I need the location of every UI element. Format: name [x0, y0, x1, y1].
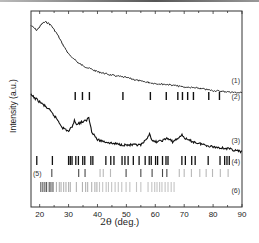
reference-patterns	[37, 92, 230, 192]
reference-pattern-5	[52, 169, 228, 177]
xrd-curve-1	[31, 22, 242, 94]
xrd-curve-3	[31, 94, 242, 153]
x-axis-unit: (deg.)	[112, 216, 139, 227]
x-tick-label: 30	[64, 210, 73, 219]
x-tick-label: 70	[180, 210, 189, 219]
x-axis-label: 2θ (deg.)	[100, 216, 139, 227]
plot-frame	[31, 11, 242, 207]
y-axis-label: Intensity (a.u.)	[8, 71, 18, 141]
xrd-curves	[31, 22, 242, 153]
x-tick-label: 90	[238, 210, 247, 219]
curve-label: (6)	[231, 187, 240, 195]
curve-label: (4)	[231, 158, 240, 166]
x-tick-label: 60	[151, 210, 160, 219]
xrd-chart: 2030405060708090 (1)(2)(3)(4)(5)(6)	[0, 0, 259, 243]
curve-label: (5)	[33, 170, 42, 178]
x-tick-label: 80	[209, 210, 218, 219]
reference-pattern-6	[41, 182, 174, 192]
x-tick-label: 20	[35, 210, 44, 219]
curve-label: (2)	[231, 93, 240, 101]
curve-label: (1)	[231, 77, 240, 85]
x-axis-symbol: 2θ	[100, 216, 112, 227]
curve-label: (3)	[231, 137, 240, 145]
reference-pattern-4	[37, 156, 230, 165]
reference-pattern-2	[75, 92, 219, 100]
